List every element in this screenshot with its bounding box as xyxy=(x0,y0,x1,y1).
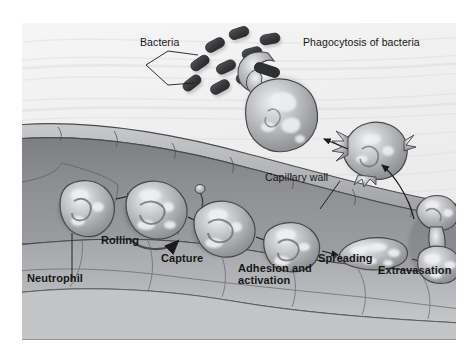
neutrophil-rolling xyxy=(124,181,187,239)
phagocyte-body xyxy=(246,79,318,152)
label-phagocytosis: Phagocytosis of bacteria xyxy=(303,37,420,49)
label-adhesion-activation: Adhesion and activation xyxy=(238,262,342,287)
illustration-svg xyxy=(22,23,456,340)
illustration-canvas xyxy=(22,23,456,340)
label-bacteria: Bacteria xyxy=(140,37,179,49)
label-extravasation: Extravasation xyxy=(378,264,451,276)
neutrophil-free xyxy=(58,181,114,237)
label-rolling: Rolling xyxy=(101,234,139,246)
label-neutrophil: Neutrophil xyxy=(27,272,83,284)
label-capillary-wall: Capillary wall xyxy=(265,172,328,184)
neutrophil-free-body xyxy=(60,181,114,237)
figure-page: Bacteria Phagocytosis of bacteria Capill… xyxy=(0,0,471,361)
label-spreading: Spreading xyxy=(318,252,373,264)
label-capture: Capture xyxy=(161,252,203,264)
